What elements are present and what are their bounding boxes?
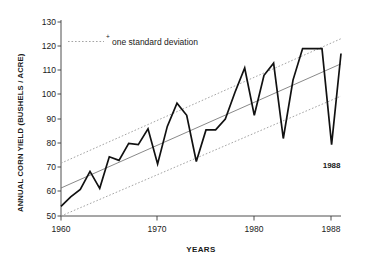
y-tick-label: 80 <box>47 138 57 148</box>
legend-plus-sign: + <box>106 33 110 40</box>
x-tick-label: 1980 <box>245 224 264 234</box>
corn-yield-line <box>61 49 341 207</box>
x-tick-label: 1970 <box>148 224 167 234</box>
x-tick-label: 1960 <box>52 224 71 234</box>
x-tick-marks <box>61 216 331 221</box>
annotation-1988: 1988 <box>323 161 341 170</box>
legend: + one standard deviation <box>68 33 198 47</box>
y-tick-label: 120 <box>42 41 56 51</box>
y-tick-label: 110 <box>42 65 56 75</box>
y-tick-marks <box>58 22 62 216</box>
y-tick-label: 70 <box>47 162 57 172</box>
x-axis-title: YEARS <box>186 245 216 254</box>
legend-label: one standard deviation <box>112 37 198 47</box>
x-tick-label: 1988 <box>322 224 341 234</box>
y-tick-label: 60 <box>47 186 57 196</box>
y-tick-label: 90 <box>47 114 57 124</box>
trend-line <box>61 64 341 188</box>
chart-canvas: ANNUAL CORN YIELD (BUSHELS / ACRE) 130 1… <box>0 0 365 265</box>
y-axis-title: ANNUAL CORN YIELD (BUSHELS / ACRE) <box>16 53 25 212</box>
y-tick-label: 50 <box>47 211 57 221</box>
lower-std-dev-band <box>61 96 341 216</box>
y-tick-label: 100 <box>42 89 56 99</box>
y-tick-label: 130 <box>42 17 56 27</box>
x-tick-labels: 1960 1970 1980 1988 <box>52 224 341 234</box>
corn-yield-chart: ANNUAL CORN YIELD (BUSHELS / ACRE) 130 1… <box>0 0 365 265</box>
annotation-1988-label: 1988 <box>323 161 341 170</box>
y-tick-labels: 130 120 110 100 90 80 70 60 50 <box>42 17 56 221</box>
